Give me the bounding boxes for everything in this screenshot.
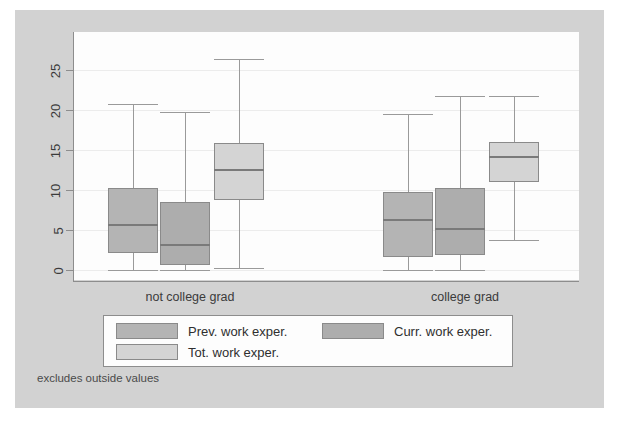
whisker-cap-lower bbox=[383, 270, 433, 271]
legend: Prev. work exper.Curr. work exper.Tot. w… bbox=[103, 315, 513, 367]
median-line bbox=[435, 228, 485, 230]
whisker-lower bbox=[408, 257, 409, 270]
whisker-cap-lower bbox=[108, 270, 158, 271]
box-iqr bbox=[383, 192, 433, 258]
box-iqr bbox=[489, 142, 539, 182]
legend-label: Curr. work exper. bbox=[394, 324, 492, 339]
y-tick-label: 5 bbox=[52, 227, 65, 234]
y-tick-label: 15 bbox=[48, 143, 61, 157]
median-line bbox=[489, 156, 539, 158]
whisker-cap-upper bbox=[435, 96, 485, 97]
whisker-cap-lower bbox=[160, 270, 210, 271]
whisker-cap-upper bbox=[383, 114, 433, 115]
x-axis-line bbox=[73, 281, 579, 282]
whisker-cap-lower bbox=[489, 240, 539, 241]
whisker-cap-upper bbox=[108, 104, 158, 105]
whisker-upper bbox=[239, 59, 240, 143]
y-tick: 15 bbox=[66, 150, 74, 151]
whisker-upper bbox=[185, 112, 186, 202]
x-axis-label-2: college grad bbox=[431, 290, 499, 304]
y-tick-label: 0 bbox=[52, 267, 65, 274]
whisker-upper bbox=[514, 96, 515, 142]
legend-entry: Tot. work exper. bbox=[116, 344, 279, 360]
median-line bbox=[383, 219, 433, 221]
whisker-lower bbox=[239, 200, 240, 268]
whisker-cap-upper bbox=[160, 112, 210, 113]
x-axis-label-1: not college grad bbox=[146, 290, 235, 304]
median-line bbox=[160, 244, 210, 246]
whisker-cap-upper bbox=[489, 96, 539, 97]
box-iqr bbox=[435, 188, 485, 255]
whisker-lower bbox=[514, 182, 515, 240]
box-iqr bbox=[214, 143, 264, 200]
legend-label: Tot. work exper. bbox=[188, 345, 279, 360]
gridline bbox=[74, 110, 579, 111]
whisker-upper bbox=[460, 96, 461, 187]
box-iqr bbox=[160, 202, 210, 265]
footnote-text: excludes outside values bbox=[37, 372, 159, 384]
whisker-upper bbox=[408, 114, 409, 192]
whisker-cap-lower bbox=[214, 268, 264, 269]
y-tick: 0 bbox=[66, 270, 74, 271]
y-tick: 20 bbox=[66, 110, 74, 111]
whisker-cap-lower bbox=[435, 270, 485, 271]
legend-label: Prev. work exper. bbox=[188, 324, 287, 339]
y-tick: 25 bbox=[66, 70, 74, 71]
box-iqr bbox=[108, 188, 158, 253]
legend-entry: Curr. work exper. bbox=[322, 323, 492, 339]
whisker-upper bbox=[133, 104, 134, 189]
whisker-cap-upper bbox=[214, 59, 264, 60]
legend-swatch bbox=[116, 323, 178, 339]
y-tick: 5 bbox=[66, 230, 74, 231]
y-tick-label: 20 bbox=[48, 103, 61, 117]
y-tick-label: 10 bbox=[48, 183, 61, 197]
legend-entry: Prev. work exper. bbox=[116, 323, 287, 339]
whisker-lower bbox=[133, 253, 134, 270]
median-line bbox=[214, 169, 264, 171]
legend-swatch bbox=[116, 344, 178, 360]
y-tick-label: 25 bbox=[48, 63, 61, 77]
y-tick: 10 bbox=[66, 190, 74, 191]
legend-swatch bbox=[322, 323, 384, 339]
gridline bbox=[74, 70, 579, 71]
figure-canvas: 0510152025 not college gradcollege grad … bbox=[15, 10, 604, 408]
median-line bbox=[108, 224, 158, 226]
whisker-lower bbox=[460, 255, 461, 270]
